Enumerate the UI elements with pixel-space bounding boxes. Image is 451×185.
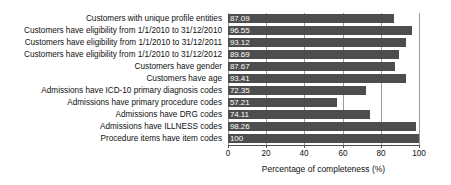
bar-value-label: 87.67	[230, 61, 250, 72]
plot-area: 87.09 96.55 93.12 89.69 87.67 93.41	[228, 13, 419, 145]
x-axis-tick	[266, 145, 267, 148]
bar-value-label: 87.09	[230, 13, 250, 24]
category-label: Customers have eligibility from 1/1/2010…	[0, 37, 225, 49]
x-axis-tick-label: 0	[226, 149, 231, 158]
bar-value-label: 93.12	[230, 37, 250, 48]
x-axis-tick	[381, 145, 382, 148]
bar	[228, 62, 395, 71]
category-label: Admissions have primary procedure codes	[0, 97, 225, 109]
bar	[228, 50, 399, 59]
category-axis-labels: Customers with unique profile entities C…	[0, 13, 225, 145]
bar-row: 89.69	[228, 49, 419, 61]
x-axis-tick-label: 100	[412, 149, 426, 158]
bar-row: 87.67	[228, 61, 419, 73]
category-label: Admissions have DRG codes	[0, 109, 225, 121]
category-label: Customers with unique profile entities	[0, 13, 225, 25]
bar	[228, 134, 419, 143]
category-label: Admissions have ICD-10 primary diagnosis…	[0, 85, 225, 97]
bar-row: 74.11	[228, 109, 419, 121]
bar-row: 93.12	[228, 37, 419, 49]
bar-value-label: 57.21	[230, 97, 250, 108]
x-axis-tick-label: 40	[299, 149, 308, 158]
category-label: Customers have eligibility from 1/1/2010…	[0, 25, 225, 37]
bar-value-label: 93.41	[230, 73, 250, 84]
bar-row: 57.21	[228, 97, 419, 109]
gridline-100	[419, 13, 420, 145]
bar	[228, 14, 394, 23]
category-label: Customers have eligibility from 1/1/2010…	[0, 49, 225, 61]
bar-row: 98.26	[228, 121, 419, 133]
x-axis-tick	[419, 145, 420, 148]
category-label: Admissions have ILLNESS codes	[0, 121, 225, 133]
bar-value-label: 72.35	[230, 85, 250, 96]
x-axis-tick-label: 20	[261, 149, 270, 158]
x-axis-title: Percentage of completeness (%)	[228, 164, 419, 174]
bar-row: 72.35	[228, 85, 419, 97]
x-axis-tick-label: 60	[338, 149, 347, 158]
bar-row: 96.55	[228, 25, 419, 37]
bar-row: 93.41	[228, 73, 419, 85]
bar	[228, 74, 406, 83]
x-axis-tick	[343, 145, 344, 148]
x-axis-line	[228, 145, 420, 146]
bar-row: 100	[228, 133, 419, 145]
bar-row: 87.09	[228, 13, 419, 25]
bar-value-label: 98.26	[230, 121, 250, 132]
bar-value-label: 74.11	[230, 109, 249, 120]
bar-value-label: 100	[230, 133, 243, 144]
bar-series: 87.09 96.55 93.12 89.69 87.67 93.41	[228, 13, 419, 145]
category-label: Customers have age	[0, 73, 225, 85]
bar-chart: Customers with unique profile entities C…	[0, 0, 451, 185]
bar	[228, 26, 412, 35]
bar-value-label: 89.69	[230, 49, 250, 60]
x-axis-tick	[228, 145, 229, 148]
bar	[228, 122, 416, 131]
x-axis-tick-label: 80	[376, 149, 385, 158]
bar	[228, 38, 406, 47]
bar	[228, 110, 370, 119]
category-label: Procedure items have item codes	[0, 133, 225, 145]
category-label: Customers have gender	[0, 61, 225, 73]
x-axis-tick	[304, 145, 305, 148]
bar-value-label: 96.55	[230, 25, 250, 36]
